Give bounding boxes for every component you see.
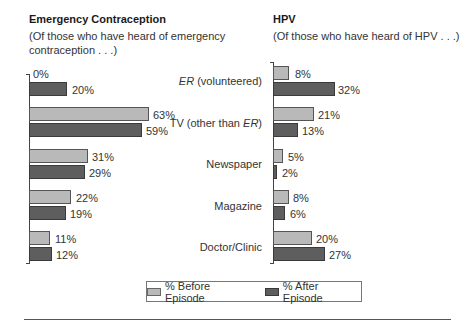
legend-item-before: % Before Episode [147, 280, 253, 304]
category-tv-prefix: TV (other than [170, 117, 243, 129]
left-newspaper-before-bar [29, 149, 88, 163]
left-chart-title: Emergency Contraception [29, 13, 166, 25]
left-magazine-after-bar [29, 206, 66, 220]
category-er-rest: (volunteered) [194, 75, 262, 87]
right-newspaper-before-bar [273, 149, 283, 163]
legend-item-after: % After Episode [265, 280, 361, 304]
category-tv-italic: ER [243, 117, 258, 129]
left-newspaper-after-bar [29, 165, 85, 179]
left-magazine-before-value: 22% [76, 191, 98, 205]
left-newspaper-after-value: 29% [89, 166, 111, 180]
left-subtitle-line2: contraception . . .) [29, 43, 225, 57]
right-er-before-value: 8% [295, 67, 311, 81]
right-magazine-after-value: 6% [290, 207, 306, 221]
left-er-before-value: 0% [33, 67, 49, 81]
category-er: ER (volunteered) [122, 74, 262, 88]
left-er-after-bar [29, 82, 67, 96]
left-doctor-before-bar [29, 231, 50, 245]
right-magazine-before-value: 8% [293, 191, 309, 205]
right-er-before-bar [273, 66, 289, 80]
right-axis-tick-bottom [270, 263, 274, 264]
left-doctor-before-value: 11% [55, 232, 76, 246]
right-tv-before-bar [273, 107, 314, 121]
right-doctor-before-value: 20% [316, 232, 338, 246]
right-axis-tick-top [270, 62, 274, 63]
right-chart-title: HPV [273, 13, 296, 25]
right-newspaper-before-value: 5% [288, 150, 304, 164]
right-doctor-before-bar [273, 231, 312, 245]
legend-label-before: % Before Episode [165, 280, 253, 304]
left-newspaper-before-value: 31% [92, 150, 114, 164]
category-magazine: Magazine [122, 199, 262, 213]
left-chart-subtitle: (Of those who have heard of emergency co… [29, 29, 225, 57]
right-doctor-after-bar [273, 247, 325, 261]
left-subtitle-line1: (Of those who have heard of emergency [29, 29, 225, 43]
right-er-after-bar [273, 82, 335, 96]
category-tv-suffix: ) [258, 117, 262, 129]
legend-label-after: % After Episode [283, 280, 361, 304]
left-magazine-after-value: 19% [70, 207, 92, 221]
right-magazine-after-bar [273, 206, 285, 220]
bottom-divider [24, 319, 451, 320]
left-magazine-before-bar [29, 190, 71, 204]
right-doctor-after-value: 27% [329, 248, 351, 262]
left-axis-tick-top [26, 74, 30, 75]
right-tv-before-value: 21% [318, 108, 340, 122]
left-axis-tick-bottom [26, 263, 30, 264]
legend-swatch-before-icon [147, 288, 161, 296]
legend-swatch-after-icon [265, 288, 279, 296]
category-tv: TV (other than ER) [122, 116, 262, 130]
right-newspaper-after-value: 2% [282, 166, 298, 180]
category-newspaper: Newspaper [122, 157, 262, 171]
right-tv-after-bar [273, 123, 298, 137]
left-er-after-value: 20% [72, 83, 94, 97]
right-tv-after-value: 13% [302, 124, 324, 138]
right-newspaper-after-bar [273, 165, 277, 179]
left-doctor-after-bar [29, 247, 52, 261]
category-er-italic: ER [179, 75, 194, 87]
left-doctor-after-value: 12% [56, 248, 78, 262]
right-magazine-before-bar [273, 190, 289, 204]
chart-legend: % Before Episode % After Episode [146, 281, 362, 302]
category-doctor: Doctor/Clinic [122, 240, 262, 254]
right-chart-subtitle: (Of those who have heard of HPV . . .) [273, 29, 459, 43]
right-er-after-value: 32% [338, 83, 360, 97]
